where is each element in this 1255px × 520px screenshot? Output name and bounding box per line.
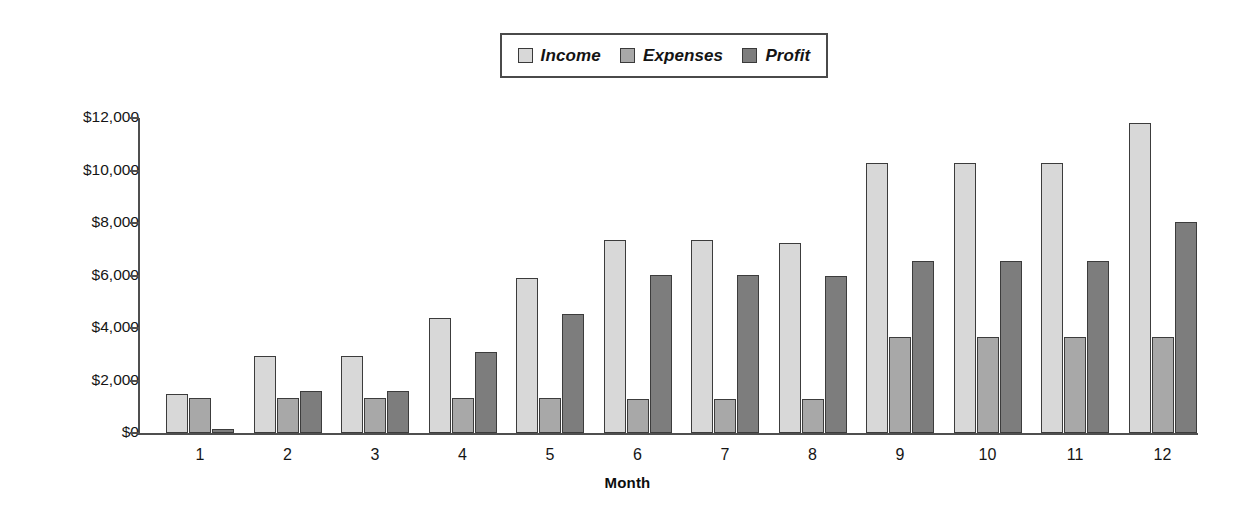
bar-profit-month-10: [1000, 261, 1022, 433]
y-axis-tick-mark: [130, 117, 139, 119]
x-axis-tick-label-10: 10: [968, 446, 1008, 464]
bar-chart-plot: $0$2,000$4,000$6,000$8,000$10,000$12,000…: [0, 0, 1255, 520]
x-axis-tick-label-2: 2: [268, 446, 308, 464]
x-axis-tick-label-11: 11: [1055, 446, 1095, 464]
y-axis-tick-label: $10,000: [65, 162, 139, 178]
y-axis-tick-label: $8,000: [65, 214, 139, 230]
bar-profit-month-3: [387, 391, 409, 433]
y-axis-tick-label: $6,000: [65, 267, 139, 283]
y-axis-tick-mark: [130, 275, 139, 277]
y-axis-tick-mark: [130, 432, 139, 434]
bar-income-month-9: [866, 163, 888, 433]
bar-expenses-month-1: [189, 398, 211, 433]
bar-expenses-month-10: [977, 337, 999, 433]
x-axis-tick-label-7: 7: [705, 446, 745, 464]
bar-income-month-11: [1041, 163, 1063, 433]
bar-profit-month-11: [1087, 261, 1109, 433]
y-axis-tick: $10,000: [48, 170, 139, 172]
bar-income-month-7: [691, 240, 713, 433]
bar-expenses-month-3: [364, 398, 386, 433]
y-axis-tick: $2,000: [48, 380, 139, 382]
bar-expenses-month-9: [889, 337, 911, 433]
bar-income-month-3: [341, 356, 363, 433]
y-axis-tick: $8,000: [48, 222, 139, 224]
y-axis-tick: $6,000: [48, 275, 139, 277]
bar-profit-month-2: [300, 391, 322, 433]
bar-expenses-month-12: [1152, 337, 1174, 433]
bar-profit-month-9: [912, 261, 934, 433]
y-axis-tick-label: $0: [65, 424, 139, 440]
bar-profit-month-6: [650, 275, 672, 433]
bar-expenses-month-7: [714, 399, 736, 433]
bar-expenses-month-5: [539, 398, 561, 433]
bar-profit-month-4: [475, 352, 497, 433]
y-axis-tick-mark: [130, 327, 139, 329]
bar-income-month-1: [166, 394, 188, 433]
bar-income-month-2: [254, 356, 276, 433]
bar-expenses-month-2: [277, 398, 299, 433]
y-axis-tick-label: $4,000: [65, 319, 139, 335]
x-axis-tick-label-4: 4: [443, 446, 483, 464]
bar-expenses-month-8: [802, 399, 824, 433]
bar-profit-month-5: [562, 314, 584, 433]
bar-income-month-6: [604, 240, 626, 433]
y-axis-tick-mark: [130, 380, 139, 382]
x-axis-tick-label-1: 1: [180, 446, 220, 464]
y-axis-tick: $12,000: [48, 117, 139, 119]
bar-profit-month-1: [212, 429, 234, 433]
x-axis-tick-label-12: 12: [1143, 446, 1183, 464]
y-axis-tick-label: $12,000: [65, 109, 139, 125]
bar-income-month-8: [779, 243, 801, 433]
bar-expenses-month-4: [452, 398, 474, 433]
bar-expenses-month-11: [1064, 337, 1086, 433]
x-axis-tick-label-3: 3: [355, 446, 395, 464]
bar-expenses-month-6: [627, 399, 649, 433]
bar-income-month-10: [954, 163, 976, 433]
x-axis-tick-label-5: 5: [530, 446, 570, 464]
bar-income-month-5: [516, 278, 538, 433]
bar-profit-month-7: [737, 275, 759, 433]
y-axis-tick: $0: [48, 432, 139, 434]
x-axis-tick-label-8: 8: [793, 446, 833, 464]
x-axis-title: Month: [0, 474, 1255, 491]
x-axis-line: [138, 433, 1198, 435]
y-axis-tick-label: $2,000: [65, 372, 139, 388]
bar-profit-month-8: [825, 276, 847, 434]
y-axis-tick-mark: [130, 170, 139, 172]
y-axis-tick-mark: [130, 222, 139, 224]
y-axis-tick: $4,000: [48, 327, 139, 329]
bar-income-month-12: [1129, 123, 1151, 433]
x-axis-tick-label-6: 6: [618, 446, 658, 464]
bar-income-month-4: [429, 318, 451, 434]
x-axis-tick-label-9: 9: [880, 446, 920, 464]
bar-profit-month-12: [1175, 222, 1197, 433]
